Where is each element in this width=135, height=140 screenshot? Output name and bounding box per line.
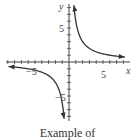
- y-tick-label-5: 5: [59, 23, 64, 34]
- x-tick-label-5: 5: [101, 69, 106, 80]
- x-tick-label-neg5: −5: [26, 66, 37, 77]
- y-tick-label-neg5: −5: [55, 92, 66, 103]
- caption: Example of: [0, 126, 135, 140]
- hyperbola-graph: x y −5 5 5 −5: [0, 0, 135, 126]
- y-axis-label: y: [58, 1, 64, 12]
- curve-branch-positive: [74, 5, 125, 57]
- x-axis-label: x: [125, 65, 131, 76]
